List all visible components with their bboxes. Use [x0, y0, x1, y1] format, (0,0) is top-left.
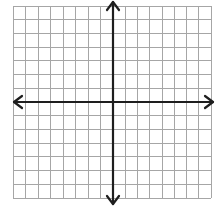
- axes: [14, 2, 213, 204]
- coordinate-grid-svg: [0, 0, 220, 206]
- coordinate-plane: [0, 0, 220, 206]
